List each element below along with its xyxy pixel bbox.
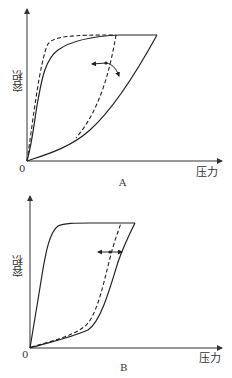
y-axis-label-a: 容积 [11,70,27,92]
origin-label-a: 0 [19,163,25,174]
curved-double-arrow-icon [92,61,119,76]
x-axis-label-b: 压力 [199,349,221,365]
panel-caption-a: A [119,177,126,188]
origin-label-b: 0 [22,349,28,360]
panel-b [30,196,222,348]
panel-caption-b: B [120,362,127,373]
y-axis-label-b: 容积 [11,255,27,277]
dashed-curve [31,223,121,347]
solid-curve-lower [27,35,157,161]
dashed-curve-upper [27,35,116,161]
solid-curve-upper [27,35,157,161]
solid-curve-lower [30,223,135,348]
panel-a [27,9,222,161]
horizontal-double-arrow-icon [98,250,122,253]
dashed-curve-lower [76,35,116,138]
x-axis-label-a: 压力 [196,163,218,179]
figure-canvas [0,0,232,378]
solid-curve-upper [30,223,135,348]
